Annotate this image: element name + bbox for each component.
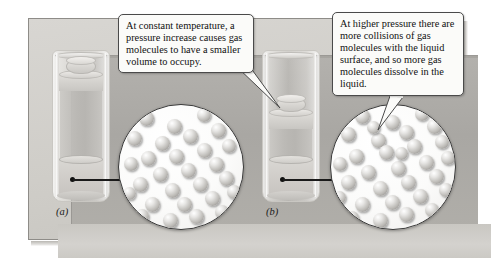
gas-molecule — [429, 169, 444, 184]
gas-molecule — [391, 161, 406, 176]
gas-molecule — [349, 149, 364, 164]
gas-molecule — [169, 149, 184, 164]
gas-molecule — [385, 195, 400, 210]
gas-molecule — [189, 209, 204, 224]
gas-molecule — [211, 123, 226, 138]
panel-floor — [58, 224, 491, 258]
gas-molecule — [413, 189, 428, 204]
right-callout-tail — [370, 96, 404, 132]
gas-molecule — [203, 223, 217, 230]
gas-molecule — [355, 197, 370, 212]
gas-molecule — [219, 171, 234, 186]
figure-label-b: (b) — [266, 206, 278, 217]
gas-molecule — [223, 217, 236, 230]
figure-label-a: (a) — [56, 206, 68, 217]
gas-molecule — [341, 175, 356, 190]
cylinder-a-base — [57, 191, 105, 200]
gas-molecule — [227, 185, 241, 199]
gas-molecule — [373, 213, 388, 228]
gas-molecule — [435, 135, 449, 149]
gas-molecule — [197, 108, 211, 122]
gas-molecule — [141, 151, 156, 166]
gas-molecule — [407, 139, 422, 154]
gas-molecule — [183, 129, 198, 144]
gas-molecule — [139, 111, 154, 126]
gas-molecule — [155, 136, 170, 151]
gas-molecule — [355, 109, 370, 124]
gas-molecule — [135, 209, 149, 223]
gas-molecule — [399, 207, 414, 222]
gas-molecule — [123, 187, 136, 200]
cylinder-b-wall-right — [313, 53, 316, 197]
right-callout-text: At higher pressure there are more collis… — [340, 18, 454, 89]
gas-molecule — [445, 197, 456, 210]
gas-molecule — [181, 163, 196, 178]
gas-molecule — [153, 167, 168, 182]
gas-molecule — [395, 147, 408, 160]
gas-molecule — [222, 139, 236, 153]
gas-molecule — [419, 155, 434, 170]
gas-molecule — [433, 217, 446, 230]
gas-molecule — [401, 175, 416, 190]
gas-molecule — [341, 127, 356, 142]
gas-molecule — [193, 177, 208, 192]
leader-line-b — [283, 179, 335, 181]
right-callout: At higher pressure there are more collis… — [332, 12, 464, 96]
gas-molecule — [379, 145, 394, 160]
gas-molecule — [197, 143, 212, 158]
gas-molecule — [441, 151, 455, 165]
gas-molecule — [165, 183, 180, 198]
leader-line-a — [73, 179, 125, 181]
left-magnifier — [118, 104, 244, 230]
gas-molecule — [209, 157, 224, 172]
cylinder-b-rim — [265, 52, 317, 59]
left-callout-text: At constant temperature, a pressure incr… — [126, 20, 242, 67]
gas-molecule — [177, 197, 192, 212]
gas-molecule — [205, 191, 220, 206]
gas-molecule — [345, 211, 359, 225]
gas-molecule — [333, 191, 346, 204]
gas-molecule — [425, 203, 439, 217]
left-callout: At constant temperature, a pressure incr… — [118, 14, 254, 73]
gas-molecule — [361, 165, 376, 180]
gas-molecule — [439, 183, 453, 197]
gas-molecule — [373, 181, 388, 196]
gas-molecule — [333, 157, 347, 171]
gas-molecule — [127, 131, 142, 146]
cylinder-a-gas-space — [60, 80, 102, 158]
gas-molecule — [167, 119, 182, 134]
cylinder-a-wall-right — [103, 53, 106, 197]
gas-molecule — [124, 157, 138, 171]
cylinder-a-knob-top — [66, 56, 96, 65]
cylinder-b-base — [267, 191, 315, 200]
gas-molecule — [415, 107, 429, 121]
gas-molecule — [427, 119, 442, 134]
gas-molecule — [145, 197, 160, 212]
gas-molecule — [413, 223, 427, 230]
cylinder-a-liquid-surface — [59, 155, 103, 164]
gas-molecule — [163, 213, 178, 228]
cylinder-b-liquid-surface — [269, 155, 313, 164]
